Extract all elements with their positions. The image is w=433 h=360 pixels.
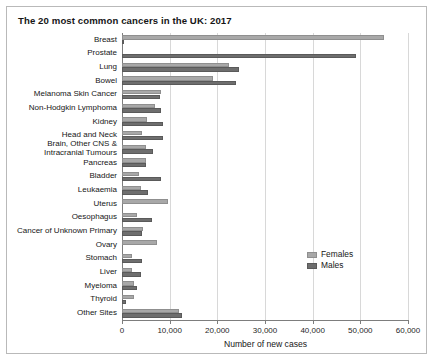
chart-row: Uterus [122,197,408,211]
bar-males [122,272,141,276]
bar-females [122,227,143,231]
x-tick-label: 50,000 [348,326,372,335]
gridline [408,33,409,320]
chart-row: Ovary [122,238,408,252]
chart-row: Non-Hodgkin Lymphoma [122,101,408,115]
x-tick-label: 0 [120,326,124,335]
chart-row: Prostate [122,47,408,61]
legend-swatch-males [307,263,317,269]
category-label: Ovary [96,241,117,250]
bar-males [122,122,163,126]
x-axis-label: Number of new cases [122,339,409,349]
category-label: Bowel [95,77,117,86]
bar-males [122,177,161,181]
bar-females [122,281,134,285]
bar-males [122,163,146,167]
bar-females [122,213,137,217]
chart-row: Oesophagus [122,211,408,225]
chart-row: Leukaemia [122,183,408,197]
bar-females [122,172,139,176]
chart-row: Other Sites [122,306,408,320]
chart-row: Breast [122,33,408,47]
chart-frame: The 20 most common cancers in the UK: 20… [6,6,427,354]
category-label: Brain, Other CNS & Intracranial Tumours [44,141,117,158]
chart-figure: The 20 most common cancers in the UK: 20… [0,0,433,360]
x-tick-label: 60,000 [396,326,420,335]
bar-females [122,309,179,313]
plot-area: BreastProstateLungBowelMelanoma Skin Can… [122,33,408,320]
category-label: Breast [94,36,117,45]
bar-males [122,95,160,99]
category-label: Head and Neck [62,131,117,140]
bar-males [122,81,236,85]
chart-row: Myeloma [122,279,408,293]
chart-row: Thyroid [122,293,408,307]
bar-females [122,104,155,108]
bar-males [122,67,239,71]
category-label: Thyroid [90,295,117,304]
category-label: Other Sites [77,309,117,318]
legend-swatch-females [307,252,317,258]
x-tick [313,320,314,324]
x-tick-label: 30,000 [253,326,277,335]
category-label: Liver [100,268,117,277]
bar-females [122,117,147,121]
chart-row: Brain, Other CNS & Intracranial Tumours [122,142,408,156]
chart-title: The 20 most common cancers in the UK: 20… [18,15,232,26]
x-tick [408,320,409,324]
x-tick [265,320,266,324]
chart-row: Lung [122,60,408,74]
category-label: Leukaemia [78,186,117,195]
chart-legend: Females Males [307,249,353,271]
chart-row: Liver [122,265,408,279]
bar-females [122,63,229,67]
bar-males [122,231,142,235]
bar-males [122,300,126,304]
category-label: Non-Hodgkin Lymphoma [29,104,117,113]
bar-females [122,90,161,94]
legend-label-females: Females [321,249,353,260]
bar-males [122,108,161,112]
bar-females [122,158,146,162]
x-tick [122,320,123,324]
category-label: Prostate [87,49,117,58]
chart-row: Head and Neck [122,129,408,143]
bar-females [122,254,132,258]
bar-males [122,40,124,44]
category-label: Myeloma [85,282,117,291]
chart-row: Cancer of Unknown Primary [122,224,408,238]
bar-females [122,186,141,190]
chart-row: Stomach [122,252,408,266]
legend-item-males: Males [307,260,353,271]
bar-males [122,259,142,263]
bar-females [122,268,132,272]
bar-females [122,199,168,203]
chart-row: Melanoma Skin Cancer [122,88,408,102]
bar-males [122,218,152,222]
bar-males [122,313,182,317]
chart-row: Kidney [122,115,408,129]
chart-row: Pancreas [122,156,408,170]
category-label: Oesophagus [72,213,117,222]
bar-males [122,54,356,58]
bar-females [122,131,142,135]
bar-females [122,240,157,244]
bar-males [122,136,163,140]
category-label: Kidney [93,118,117,127]
x-tick-label: 20,000 [205,326,229,335]
legend-item-females: Females [307,249,353,260]
x-tick [170,320,171,324]
chart-row: Bowel [122,74,408,88]
category-label: Uterus [93,200,117,209]
x-tick-label: 10,000 [157,326,181,335]
bar-males [122,190,148,194]
category-label: Pancreas [83,159,117,168]
category-label: Lung [99,63,117,72]
chart-row: Bladder [122,170,408,184]
bar-females [122,35,384,39]
bar-males [122,286,137,290]
legend-label-males: Males [321,260,343,271]
bar-females [122,145,146,149]
bar-females [122,295,134,299]
x-tick [360,320,361,324]
